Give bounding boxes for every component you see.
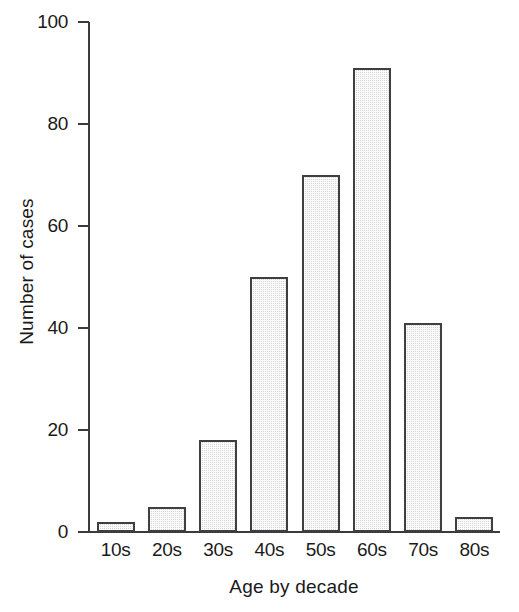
bar-slot xyxy=(302,22,340,532)
y-tick-label: 0 xyxy=(22,522,68,541)
bar xyxy=(199,440,237,532)
bar-slot xyxy=(404,22,442,532)
y-tick-label: 100 xyxy=(22,12,68,31)
x-tick-label: 50s xyxy=(295,540,346,559)
y-tick-mark xyxy=(78,123,89,125)
x-tick-label: 10s xyxy=(90,540,141,559)
bar xyxy=(455,517,493,532)
bar-slot xyxy=(455,22,493,532)
bar xyxy=(148,507,186,533)
x-axis-title: Age by decade xyxy=(88,577,500,596)
y-tick-mark xyxy=(78,531,89,533)
y-tick-label: 80 xyxy=(22,114,68,133)
y-tick-mark xyxy=(78,327,89,329)
y-tick-mark xyxy=(78,21,89,23)
bar-chart: Number of cases 020406080100 10s20s30s40… xyxy=(0,0,519,612)
x-tick-label: 40s xyxy=(244,540,295,559)
y-tick-label: 40 xyxy=(22,318,68,337)
bar xyxy=(302,175,340,532)
bar-slot xyxy=(250,22,288,532)
bar xyxy=(250,277,288,532)
x-tick-label: 70s xyxy=(398,540,449,559)
x-tick-label: 30s xyxy=(193,540,244,559)
y-tick-mark xyxy=(78,225,89,227)
bar-slot xyxy=(97,22,135,532)
plot-area xyxy=(90,22,500,532)
x-tick-label: 60s xyxy=(346,540,397,559)
y-axis-title: Number of cases xyxy=(17,162,36,382)
bar-slot xyxy=(199,22,237,532)
y-tick-label: 60 xyxy=(22,216,68,235)
x-tick-label: 80s xyxy=(449,540,500,559)
x-tick-label: 20s xyxy=(141,540,192,559)
bar-slot xyxy=(148,22,186,532)
y-tick-label: 20 xyxy=(22,420,68,439)
bar-slot xyxy=(353,22,391,532)
y-tick-mark xyxy=(78,429,89,431)
bar xyxy=(404,323,442,532)
bar xyxy=(97,522,135,532)
bar xyxy=(353,68,391,532)
